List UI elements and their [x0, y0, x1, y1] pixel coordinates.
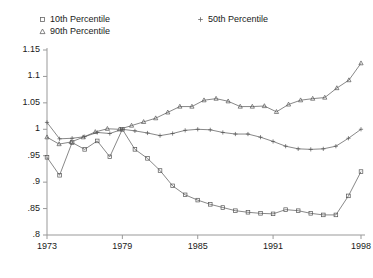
y-axis-tick-label: 1.15 — [6, 45, 40, 54]
y-axis-tick-label: .8 — [6, 230, 40, 239]
y-axis-tick-label: .9 — [6, 177, 40, 186]
chart-figure: 10th Percentile 90th Percentile 50th Per… — [0, 0, 373, 278]
x-axis-tick-label: 1998 — [341, 242, 373, 251]
y-axis-tick-label: .95 — [6, 151, 40, 160]
x-axis-tick-label: 1985 — [178, 242, 218, 251]
plot-area — [0, 0, 373, 278]
x-axis-tick-label: 1991 — [253, 242, 293, 251]
x-axis-tick-label: 1973 — [27, 242, 67, 251]
y-axis-tick-label: 1.05 — [6, 98, 40, 107]
y-axis-tick-label: .85 — [6, 204, 40, 213]
x-axis-tick-label: 1979 — [102, 242, 142, 251]
y-axis-tick-label: 1.1 — [6, 71, 40, 80]
y-axis-tick-label: 1 — [6, 124, 40, 133]
